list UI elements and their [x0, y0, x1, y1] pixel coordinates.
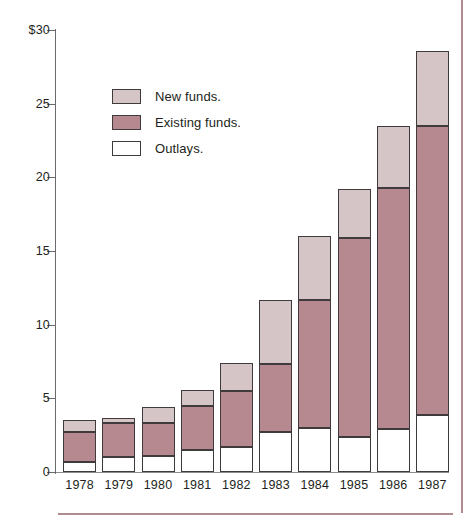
bar-segment-new-funds-1979: [102, 418, 135, 424]
bar-segment-existing-funds-1978: [63, 432, 96, 461]
bar-segment-outlays-1979: [102, 457, 135, 472]
legend-swatch-existing-funds: [112, 115, 141, 130]
bar-segment-existing-funds-1986: [377, 188, 410, 430]
bar-segment-new-funds-1978: [63, 420, 96, 432]
legend-item-outlays: Outlays.: [112, 135, 241, 161]
bar-segment-outlays-1980: [142, 456, 175, 472]
bar-segment-outlays-1978: [63, 462, 96, 472]
y-tick-label: 20: [36, 170, 50, 184]
legend-swatch-outlays: [112, 141, 141, 156]
legend-label-new-funds: New funds.: [155, 89, 221, 104]
y-tick-label: 0: [43, 465, 50, 479]
bar-segment-existing-funds-1981: [181, 406, 214, 450]
x-axis-line: [55, 472, 449, 473]
legend-label-existing-funds: Existing funds.: [155, 115, 241, 130]
legend-item-new-funds: New funds.: [112, 83, 241, 109]
chart-legend: New funds. Existing funds. Outlays.: [112, 83, 241, 161]
y-tick-label: 15: [36, 244, 50, 258]
bar-segment-outlays-1981: [181, 450, 214, 472]
right-rule: [461, 0, 463, 513]
bar-segment-existing-funds-1987: [416, 126, 449, 415]
bar-segment-outlays-1982: [220, 447, 253, 472]
legend-swatch-new-funds: [112, 89, 141, 104]
legend-item-existing-funds: Existing funds.: [112, 109, 241, 135]
bar-segment-new-funds-1985: [338, 189, 371, 238]
bar-segment-existing-funds-1983: [259, 364, 292, 432]
y-tick-label: 25: [36, 97, 50, 111]
bar-segment-existing-funds-1985: [338, 238, 371, 437]
bottom-rule: [58, 513, 453, 515]
bar-segment-new-funds-1987: [416, 51, 449, 126]
y-tick-label: 5: [43, 391, 50, 405]
chart-root: 0510152025$30 19781979198019811982198319…: [0, 0, 469, 525]
bar-segment-outlays-1983: [259, 432, 292, 472]
bar-segment-existing-funds-1979: [102, 423, 135, 457]
bar-segment-new-funds-1981: [181, 390, 214, 406]
bar-segment-new-funds-1982: [220, 363, 253, 391]
bar-segment-new-funds-1984: [298, 236, 331, 299]
bar-segment-existing-funds-1984: [298, 300, 331, 428]
bar-segment-outlays-1986: [377, 429, 410, 472]
bar-segment-outlays-1987: [416, 415, 449, 472]
bar-segment-outlays-1984: [298, 428, 331, 472]
bar-segment-new-funds-1986: [377, 126, 410, 188]
bar-segment-existing-funds-1980: [142, 423, 175, 455]
y-tick-label: 10: [36, 318, 50, 332]
legend-label-outlays: Outlays.: [155, 141, 203, 156]
x-axis-label-1987: 1987: [410, 478, 455, 492]
y-tick-label: $30: [29, 23, 50, 37]
bar-segment-new-funds-1983: [259, 300, 292, 365]
bar-segment-new-funds-1980: [142, 407, 175, 423]
bar-segment-existing-funds-1982: [220, 391, 253, 447]
bar-segment-outlays-1985: [338, 437, 371, 472]
